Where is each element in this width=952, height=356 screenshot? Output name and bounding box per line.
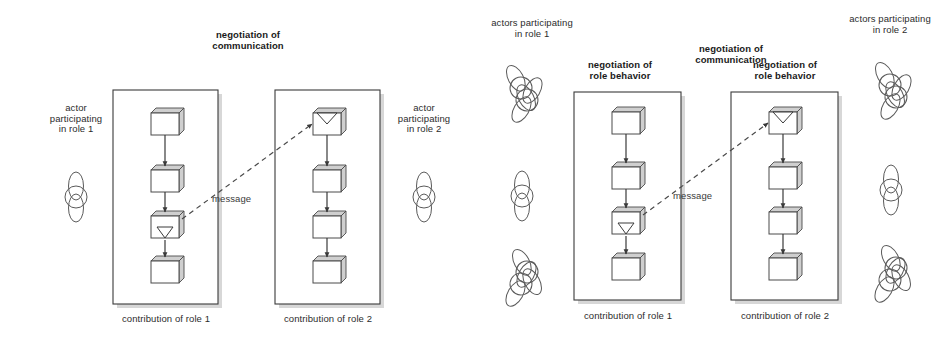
left-panel-lane-2-caption: contribution of role 2 [266,314,390,325]
left-panel-lane-1-caption: contribution of role 1 [104,314,228,325]
right-panel-lane-2-title: negotiation of role behavior [730,60,840,81]
node-plain [151,165,184,192]
node-plain [612,162,645,189]
node-plain [612,253,645,280]
node-plain [313,211,346,238]
node-plain [313,256,346,283]
node-plain [151,256,184,283]
node-receive [769,107,802,134]
node-plain [313,165,346,192]
diagram-canvas: negotiation of communication actor parti… [0,0,952,356]
right-panel-message-label: message [673,191,733,202]
node-receive [313,108,346,135]
actor-cluster-role-2 [868,58,918,307]
right-panel-lane-2-caption: contribution of role 2 [723,311,847,322]
node-plain [769,207,802,234]
right-panel-lane-1-caption: contribution of role 1 [566,311,690,322]
left-panel-message-label: message [212,194,272,205]
left-panel-title: negotiation of communication [178,30,318,51]
actor-figure-role-2 [413,172,435,222]
right-panel-lane-1-title: negotiation of role behavior [565,60,675,81]
node-plain [769,253,802,280]
actor-figure-role-1 [65,172,87,222]
node-send [151,211,184,238]
left-panel-actor-label-role-1: actor participating in role 1 [26,103,126,135]
node-send [612,207,645,234]
diagram-graphics [0,0,952,356]
node-plain [612,107,645,134]
actor-cluster-role-1 [499,61,549,311]
node-plain [151,108,184,135]
right-panel-graphics [499,58,918,311]
left-panel-actor-label-role-2: actor participating in role 2 [374,103,474,135]
right-panel-actor-label-role-2: actors participating in role 2 [830,14,950,35]
node-plain [769,162,802,189]
right-panel-actor-label-role-1: actors participating in role 1 [472,18,592,39]
